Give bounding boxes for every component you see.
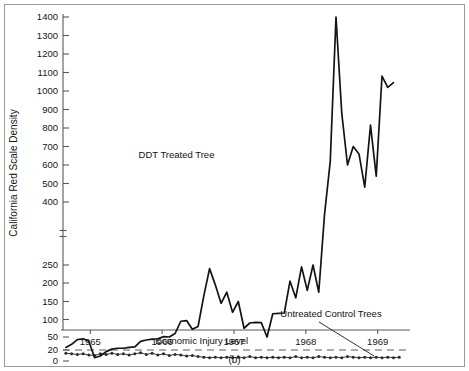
y-axis-title: California Red Scale Density [8, 109, 19, 236]
y-tick-label-1300: 1300 [37, 30, 58, 41]
y-tick-label-250: 250 [42, 259, 58, 270]
y-tick-label-700: 700 [42, 141, 58, 152]
y-tick-label-600: 600 [42, 159, 58, 170]
annotation-economic-injury-level: Economic Injury Level [155, 335, 248, 346]
caption-label: (b) [228, 354, 240, 365]
chart-plot: 0205010015020025040050060070080090010001… [0, 0, 469, 371]
series-line-ddt-treated-tree [66, 17, 394, 358]
y-tick-label-1100: 1100 [38, 67, 58, 78]
y-tick-label-100: 100 [42, 314, 58, 325]
y-tick-label-1000: 1000 [37, 85, 58, 96]
y-tick-label-200: 200 [42, 277, 58, 288]
annotation-untreated-control-trees: Untreated Control Trees [280, 308, 382, 319]
caption: (b) [0, 349, 469, 367]
y-tick-label-1400: 1400 [37, 11, 58, 22]
annotation-ddt-treated-tree: DDT Treated Tree [139, 149, 215, 160]
x-tick-label-1969: 1969 [367, 336, 388, 347]
y-tick-label-900: 900 [42, 104, 58, 115]
y-tick-label-150: 150 [42, 296, 58, 307]
y-tick-label-50: 50 [47, 331, 58, 342]
y-tick-label-400: 400 [42, 196, 58, 207]
y-tick-label-500: 500 [42, 178, 58, 189]
figure-container: 0205010015020025040050060070080090010001… [0, 0, 469, 371]
y-tick-label-800: 800 [42, 122, 58, 133]
x-tick-label-1968: 1968 [295, 336, 316, 347]
y-tick-label-1200: 1200 [37, 48, 58, 59]
